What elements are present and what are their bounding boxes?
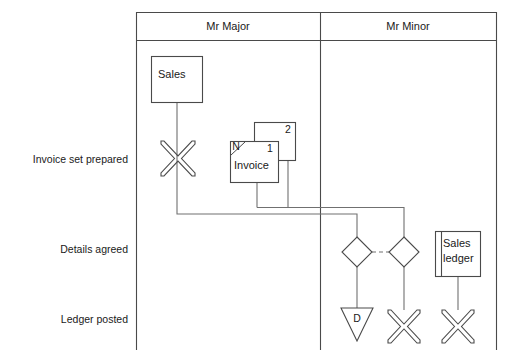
file-triangle-label: D <box>353 312 361 324</box>
terminator-sales-ledger[interactable] <box>442 310 474 343</box>
node-sales-box[interactable]: Sales <box>152 57 203 103</box>
node-invoice-set[interactable]: 2 N 1 Invoice <box>231 123 296 183</box>
invoice-label: Invoice <box>234 159 269 171</box>
row-label-details-agreed: Details agreed <box>60 243 128 255</box>
terminator-sales-copy[interactable] <box>161 141 195 176</box>
node-agreement-diamond-left[interactable] <box>342 237 372 267</box>
column-header-mr-major: Mr Major <box>206 20 250 32</box>
row-label-invoice-set-prepared: Invoice set prepared <box>33 153 128 165</box>
agreement-diamond-left-shape <box>342 237 372 267</box>
sales-ledger-label-line1: Sales <box>443 237 471 249</box>
document-flowchart: Mr Major Mr Minor Invoice set prepared D… <box>0 0 514 358</box>
node-file-triangle[interactable]: D <box>341 308 373 341</box>
sales-box-label: Sales <box>158 68 186 80</box>
agreement-diamond-right-shape <box>389 237 419 267</box>
node-agreement-diamond-right[interactable] <box>389 237 419 267</box>
connector-group <box>177 103 458 310</box>
invoice-copy2-number: 2 <box>285 123 291 135</box>
terminator-x-glyph-major <box>161 141 195 176</box>
terminator-x-glyph-invoice <box>388 310 420 343</box>
terminator-x-glyph-ledger <box>442 310 474 343</box>
terminator-invoice-copy[interactable] <box>388 310 420 343</box>
sales-ledger-label-line2: ledger <box>443 252 474 264</box>
column-header-mr-minor: Mr Minor <box>386 20 430 32</box>
invoice-corner-marker: N <box>232 140 240 152</box>
flowchart-canvas: Mr Major Mr Minor Invoice set prepared D… <box>0 0 514 358</box>
node-sales-ledger[interactable]: Sales ledger <box>436 232 481 277</box>
row-label-ledger-posted: Ledger posted <box>61 313 128 325</box>
connector-invoice-to-right-diamond <box>257 208 404 238</box>
invoice-copy1-number: 1 <box>267 142 273 154</box>
